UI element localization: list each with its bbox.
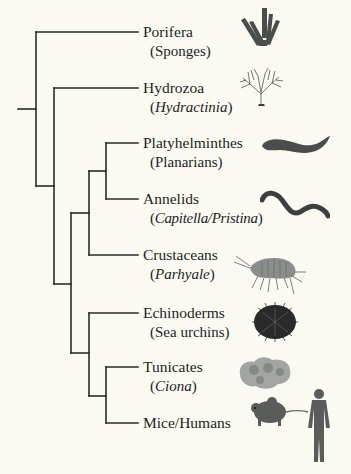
taxon-label-echinoderms: Echinoderms xyxy=(143,303,225,322)
amphipod-icon xyxy=(232,250,310,296)
common-name-annelids: (Capitella/Pristina) xyxy=(150,209,262,228)
common-name-hydrozoa: (Hydractinia) xyxy=(150,98,233,117)
taxon-label-mice-humans: Mice/Humans xyxy=(143,413,231,432)
taxon-label-platyhelminthes: Platyhelminthes xyxy=(143,133,243,152)
sea-urchin-icon xyxy=(250,300,300,344)
taxon-label-crustaceans: Crustaceans xyxy=(143,245,218,264)
common-name-echinoderms: (Sea urchins) xyxy=(150,323,230,342)
worm-icon xyxy=(260,186,330,222)
common-name-porifera: (Sponges) xyxy=(150,42,211,61)
hydroid-icon xyxy=(238,66,284,106)
sponge-icon xyxy=(236,8,284,48)
taxon-label-annelids: Annelids xyxy=(143,189,199,208)
taxon-label-tunicates: Tunicates xyxy=(143,357,203,376)
taxon-label-porifera: Porifera xyxy=(143,22,193,41)
mouse-human-icon xyxy=(248,386,338,466)
common-name-tunicates: (Ciona) xyxy=(150,377,197,396)
common-name-platyhelminthes: (Planarians) xyxy=(150,153,222,172)
taxon-label-hydrozoa: Hydrozoa xyxy=(143,78,204,97)
planarian-icon xyxy=(260,132,332,158)
common-name-crustaceans: (Parhyale) xyxy=(150,265,215,284)
tunicate-icon xyxy=(236,356,294,390)
